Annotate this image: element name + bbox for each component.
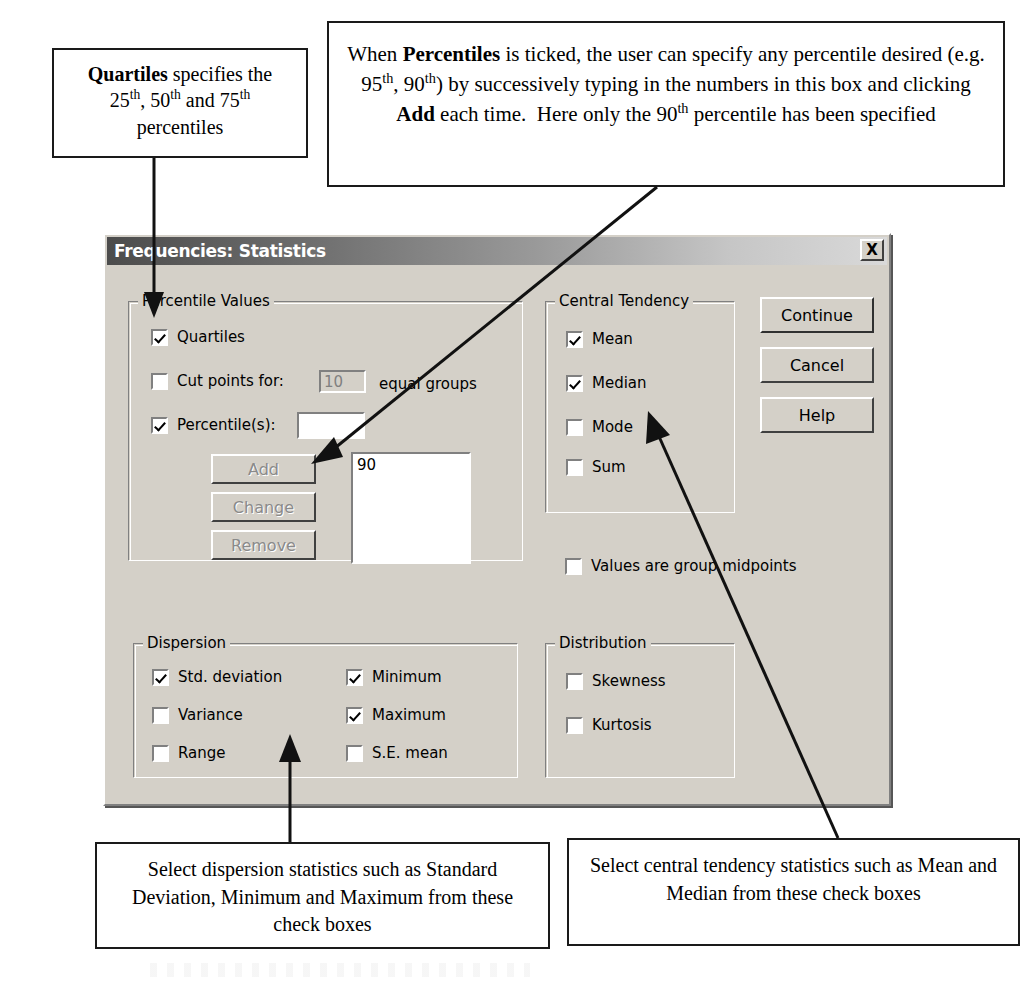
checkbox-range[interactable]: Range — [152, 744, 226, 762]
checkbox-quartiles-box[interactable] — [151, 329, 168, 346]
group-central-tendency: Central Tendency Mean Median Mode Sum — [545, 301, 735, 513]
checkbox-cut-points[interactable]: Cut points for: — [151, 372, 284, 390]
continue-button[interactable]: Continue — [760, 297, 874, 333]
checkbox-std-deviation-box[interactable] — [152, 669, 169, 686]
dialog-body: Percentile Values Quartiles Cut points f… — [105, 265, 889, 805]
checkbox-skewness-box[interactable] — [566, 673, 583, 690]
checkbox-mean-label: Mean — [592, 330, 633, 348]
checkbox-median-label: Median — [592, 374, 647, 392]
cut-points-input[interactable]: 10 — [319, 370, 366, 393]
checkbox-minimum[interactable]: Minimum — [346, 668, 442, 686]
checkbox-cut-points-label: Cut points for: — [177, 372, 284, 390]
group-distribution-caption: Distribution — [555, 634, 651, 652]
scan-artifact — [150, 963, 530, 977]
checkbox-skewness-label: Skewness — [592, 672, 666, 690]
ordinal-suffix: th — [130, 88, 141, 103]
checkbox-kurtosis-label: Kurtosis — [592, 716, 652, 734]
dispersion-callout-text: Select dispersion statistics such as Sta… — [109, 856, 536, 939]
percentiles-listbox[interactable]: 90 — [351, 452, 471, 564]
add-bold-term: Add — [396, 102, 435, 126]
list-item[interactable]: 90 — [357, 456, 465, 474]
group-dispersion-caption: Dispersion — [143, 634, 230, 652]
central-tendency-callout: Select central tendency statistics such … — [567, 838, 1020, 946]
checkbox-percentiles-box[interactable] — [151, 417, 168, 434]
quartiles-callout: Quartiles specifies the 25th, 50th and 7… — [52, 48, 308, 158]
percentiles-callout-text: When Percentiles is ticked, the user can… — [347, 40, 985, 129]
quartiles-callout-line1: Quartiles specifies the — [62, 61, 298, 87]
help-button[interactable]: Help — [760, 397, 874, 433]
checkbox-variance-label: Variance — [178, 706, 243, 724]
checkbox-maximum-label: Maximum — [372, 706, 446, 724]
checkbox-sum[interactable]: Sum — [566, 458, 626, 476]
checkbox-kurtosis[interactable]: Kurtosis — [566, 716, 652, 734]
cut-points-suffix-label: equal groups — [379, 375, 477, 393]
checkbox-values-are-group-midpoints-label: Values are group midpoints — [591, 557, 797, 575]
group-percentile-values-caption: Percentile Values — [138, 292, 274, 310]
percentiles-callout: When Percentiles is ticked, the user can… — [327, 21, 1005, 187]
close-icon[interactable]: X — [860, 239, 884, 261]
percentile-input[interactable] — [297, 412, 365, 439]
checkbox-mode[interactable]: Mode — [566, 418, 633, 436]
ordinal-suffix: th — [170, 88, 181, 103]
checkbox-std-deviation-label: Std. deviation — [178, 668, 282, 686]
quartiles-bold-term: Quartiles — [88, 63, 168, 85]
checkbox-variance-box[interactable] — [152, 707, 169, 724]
checkbox-mean-box[interactable] — [566, 331, 583, 348]
percentiles-seg1: When — [347, 42, 402, 66]
checkbox-quartiles[interactable]: Quartiles — [151, 328, 245, 346]
checkbox-median-box[interactable] — [566, 375, 583, 392]
change-button[interactable]: Change — [211, 492, 316, 522]
checkbox-sum-label: Sum — [592, 458, 626, 476]
checkbox-variance[interactable]: Variance — [152, 706, 243, 724]
checkbox-range-label: Range — [178, 744, 226, 762]
add-button[interactable]: Add — [211, 454, 316, 484]
checkbox-kurtosis-box[interactable] — [566, 717, 583, 734]
checkbox-percentiles-label: Percentile(s): — [177, 416, 276, 434]
checkbox-minimum-label: Minimum — [372, 668, 442, 686]
quartiles-line1-rest: specifies the — [168, 63, 272, 85]
checkbox-mode-label: Mode — [592, 418, 633, 436]
cancel-button[interactable]: Cancel — [760, 347, 874, 383]
dispersion-callout: Select dispersion statistics such as Sta… — [95, 842, 550, 949]
dialog-title: Frequencies: Statistics — [107, 241, 326, 261]
checkbox-minimum-box[interactable] — [346, 669, 363, 686]
checkbox-cut-points-box[interactable] — [151, 373, 168, 390]
checkbox-mode-box[interactable] — [566, 419, 583, 436]
ordinal-suffix: th — [425, 70, 436, 86]
checkbox-maximum-box[interactable] — [346, 707, 363, 724]
checkbox-percentiles[interactable]: Percentile(s): — [151, 416, 276, 434]
checkbox-values-are-group-midpoints[interactable]: Values are group midpoints — [565, 557, 797, 575]
checkbox-median[interactable]: Median — [566, 374, 647, 392]
group-percentile-values: Percentile Values Quartiles Cut points f… — [128, 301, 523, 561]
quartiles-callout-line2: 25th, 50th and 75th — [62, 87, 298, 113]
checkbox-std-deviation[interactable]: Std. deviation — [152, 668, 282, 686]
checkbox-range-box[interactable] — [152, 745, 169, 762]
remove-button[interactable]: Remove — [211, 530, 316, 560]
group-dispersion: Dispersion Std. deviation Variance Range… — [133, 643, 518, 778]
group-distribution: Distribution Skewness Kurtosis — [545, 643, 735, 778]
checkbox-values-are-group-midpoints-box[interactable] — [565, 558, 582, 575]
checkbox-se-mean-label: S.E. mean — [372, 744, 448, 762]
checkbox-sum-box[interactable] — [566, 459, 583, 476]
checkbox-mean[interactable]: Mean — [566, 330, 633, 348]
checkbox-quartiles-label: Quartiles — [177, 328, 245, 346]
central-callout-text: Select central tendency statistics such … — [581, 852, 1006, 907]
percentiles-bold-term: Percentiles — [403, 42, 501, 66]
checkbox-se-mean-box[interactable] — [346, 745, 363, 762]
checkbox-skewness[interactable]: Skewness — [566, 672, 666, 690]
ordinal-suffix: th — [677, 100, 688, 116]
frequencies-statistics-dialog: Frequencies: Statistics X Percentile Val… — [103, 233, 891, 806]
checkbox-se-mean[interactable]: S.E. mean — [346, 744, 448, 762]
dialog-titlebar[interactable]: Frequencies: Statistics X — [107, 237, 887, 265]
ordinal-suffix: th — [240, 88, 251, 103]
quartiles-callout-line3: percentiles — [62, 114, 298, 140]
group-central-tendency-caption: Central Tendency — [555, 292, 693, 310]
checkbox-maximum[interactable]: Maximum — [346, 706, 446, 724]
ordinal-suffix: th — [382, 70, 393, 86]
